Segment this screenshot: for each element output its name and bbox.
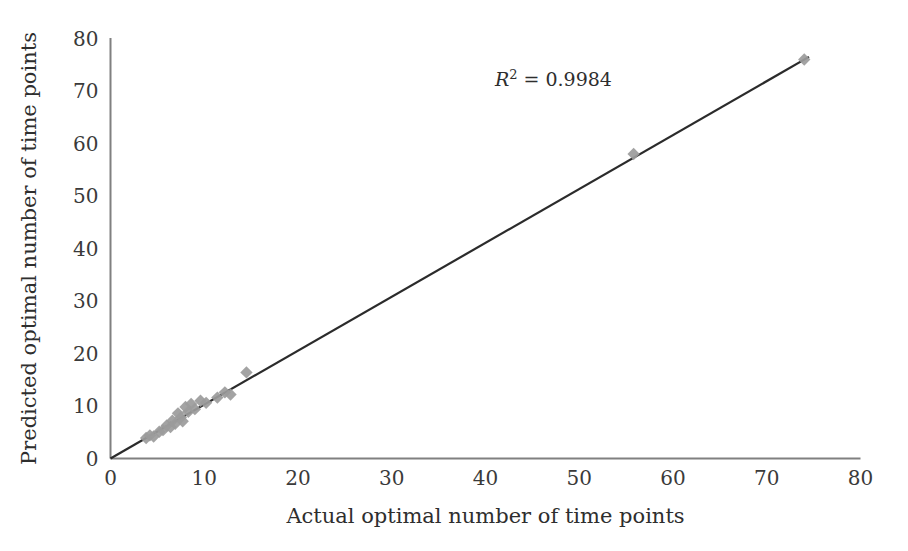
x-axis-title: Actual optimal number of time points	[285, 504, 684, 528]
r-squared-annotation: R2 = 0.9984	[494, 67, 612, 90]
y-tick-label-20: 20	[73, 342, 98, 366]
r-symbol: R	[494, 68, 509, 90]
x-tick-label-40: 40	[473, 466, 498, 490]
r-superscript: 2	[509, 67, 517, 82]
x-tick-label-60: 60	[660, 466, 685, 490]
y-axis-title: Predicted optimal number of time points	[17, 32, 41, 465]
x-tick-label-70: 70	[754, 466, 779, 490]
x-tick-label-20: 20	[285, 466, 310, 490]
x-tick-label-80: 80	[848, 466, 873, 490]
y-tick-label-30: 30	[73, 289, 98, 313]
x-tick-label-30: 30	[379, 466, 404, 490]
x-tick-label-10: 10	[192, 466, 217, 490]
y-tick-label-0: 0	[86, 447, 99, 471]
y-tick-label-70: 70	[73, 79, 98, 103]
scatter-plot: 0102030405060708001020304050607080 R2 = …	[0, 0, 908, 551]
y-tick-label-40: 40	[73, 237, 98, 261]
y-tick-label-10: 10	[73, 394, 98, 418]
y-tick-label-50: 50	[73, 184, 98, 208]
chart-figure: 0102030405060708001020304050607080 R2 = …	[0, 0, 908, 551]
r-squared-value: = 0.9984	[517, 68, 611, 90]
data-point-marker	[627, 148, 639, 160]
x-tick-label-50: 50	[567, 466, 592, 490]
data-point-marker	[798, 53, 810, 65]
x-tick-label-0: 0	[104, 466, 117, 490]
y-tick-label-60: 60	[73, 132, 98, 156]
y-tick-label-80: 80	[73, 27, 98, 51]
tick-labels-group: 0102030405060708001020304050607080	[73, 27, 873, 490]
